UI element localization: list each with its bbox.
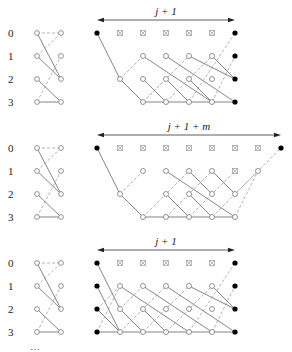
open-node <box>164 54 169 59</box>
dashed-edge <box>120 56 143 79</box>
span-arrow <box>97 248 235 252</box>
small-bipartite-diagram <box>35 261 64 335</box>
solid-edge <box>120 286 189 332</box>
row-label: 1 <box>8 165 14 177</box>
open-node <box>210 169 215 174</box>
open-node <box>35 100 40 105</box>
filled-node <box>232 30 237 35</box>
filled-node <box>94 30 99 35</box>
open-node <box>210 215 215 220</box>
crossed-box-icon <box>186 145 191 150</box>
row-label: 1 <box>8 280 14 292</box>
figure-caption-cutoff: … <box>30 341 40 352</box>
filled-node <box>94 329 99 334</box>
open-node <box>164 192 169 197</box>
open-node <box>210 100 215 105</box>
crossed-box-icon <box>255 145 260 150</box>
crossed-box-icon <box>186 260 191 265</box>
crossed-box-icon <box>232 168 237 173</box>
crossed-box-icon <box>209 30 214 35</box>
open-node <box>164 77 169 82</box>
open-node <box>118 192 123 197</box>
crossed-box-icon <box>140 145 145 150</box>
solid-edge <box>166 171 235 217</box>
open-node <box>187 215 192 220</box>
row-label: 0 <box>8 142 14 154</box>
dashed-edge <box>235 171 258 217</box>
open-node <box>141 77 146 82</box>
panel-middle: 0123j + 1 + m <box>8 120 284 223</box>
open-node <box>35 192 40 197</box>
open-node <box>164 284 169 289</box>
filled-node <box>94 283 99 288</box>
open-node <box>141 284 146 289</box>
open-node <box>59 261 64 266</box>
open-node <box>35 31 40 36</box>
filled-node <box>232 53 237 58</box>
filled-node <box>232 306 237 311</box>
open-node <box>35 146 40 151</box>
row-label: 3 <box>8 326 14 338</box>
open-node <box>187 284 192 289</box>
open-node <box>210 192 215 197</box>
dashed-edge <box>120 286 143 309</box>
row-label: 1 <box>8 50 14 62</box>
open-node <box>35 169 40 174</box>
open-node <box>210 284 215 289</box>
open-node <box>118 307 123 312</box>
arrowhead-right-icon <box>228 248 235 252</box>
filled-node <box>232 76 237 81</box>
open-node <box>35 284 40 289</box>
open-node <box>35 261 40 266</box>
row-label: 2 <box>8 73 14 85</box>
crossed-box-icon <box>209 145 214 150</box>
open-node <box>256 169 261 174</box>
open-node <box>210 330 215 335</box>
open-node <box>59 307 64 312</box>
solid-edge <box>97 148 120 194</box>
crossed-box-icon <box>163 30 168 35</box>
open-node <box>118 330 123 335</box>
solid-edge <box>97 33 120 79</box>
open-node <box>233 192 238 197</box>
arrowhead-right-icon <box>228 18 235 22</box>
open-node <box>59 77 64 82</box>
small-bipartite-diagram <box>35 146 64 220</box>
open-node <box>35 215 40 220</box>
filled-node <box>278 145 283 150</box>
solid-edge <box>166 56 235 102</box>
crossed-box-icon <box>186 30 191 35</box>
open-node <box>59 330 64 335</box>
open-node <box>59 192 64 197</box>
open-node <box>118 77 123 82</box>
open-node <box>35 54 40 59</box>
crossed-box-icon <box>163 260 168 265</box>
open-node <box>35 307 40 312</box>
small-bipartite-diagram <box>35 31 64 105</box>
panel-top: 0123j + 1 <box>8 5 238 108</box>
open-node <box>164 100 169 105</box>
crossed-box-icon <box>117 260 122 265</box>
row-label: 3 <box>8 211 14 223</box>
open-node <box>141 169 146 174</box>
filled-node <box>232 99 237 104</box>
row-label: 2 <box>8 303 14 315</box>
open-node <box>59 100 64 105</box>
open-node <box>59 284 64 289</box>
open-node <box>164 330 169 335</box>
arrowhead-right-icon <box>274 133 281 137</box>
span-label: j + 1 <box>153 5 176 17</box>
crossed-box-icon <box>209 260 214 265</box>
panel-bottom: 0123j + 1 <box>8 235 238 338</box>
open-node <box>59 169 64 174</box>
open-node <box>187 100 192 105</box>
open-node <box>187 77 192 82</box>
open-node <box>141 54 146 59</box>
open-node <box>233 215 238 220</box>
crossed-box-icon <box>117 145 122 150</box>
open-node <box>141 100 146 105</box>
filled-node <box>232 283 237 288</box>
solid-edge <box>143 286 212 332</box>
open-node <box>59 146 64 151</box>
